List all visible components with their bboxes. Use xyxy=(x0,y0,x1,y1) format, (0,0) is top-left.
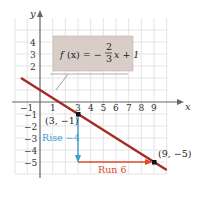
svg-text:8: 8 xyxy=(139,103,145,113)
x-axis-label: x xyxy=(185,101,191,112)
svg-text:−5: −5 xyxy=(24,158,38,168)
svg-text:4: 4 xyxy=(88,103,94,113)
svg-text:7: 7 xyxy=(126,103,132,113)
svg-text:−1: −1 xyxy=(24,110,37,120)
function-label-numerator: 2 xyxy=(106,41,112,52)
rise-label: Rise −4 xyxy=(42,132,80,143)
chart-canvas: x y −1 1 3 4 5 6 7 8 9 4 3 2 −1 −2 −3 −4… xyxy=(0,0,200,203)
svg-text:−4: −4 xyxy=(24,146,38,156)
svg-text:−2: −2 xyxy=(24,122,37,132)
svg-text:−3: −3 xyxy=(24,134,38,144)
run-label: Run 6 xyxy=(98,164,126,175)
label-leader-line xyxy=(56,74,68,90)
y-axis-arrow-icon xyxy=(37,10,43,17)
svg-text:6: 6 xyxy=(113,103,119,113)
svg-text:5: 5 xyxy=(101,103,107,113)
point-3-neg1-label: (3, −1) xyxy=(45,115,79,126)
y-axis-label: y xyxy=(29,8,36,19)
svg-text:9: 9 xyxy=(151,103,157,113)
point-9-neg5-label: (9, −5) xyxy=(158,148,192,159)
svg-text:1: 1 xyxy=(50,103,56,113)
function-label-tail: x + 1 xyxy=(114,49,139,60)
function-line xyxy=(21,78,167,170)
x-axis-arrow-icon xyxy=(177,99,184,105)
svg-text:2: 2 xyxy=(30,62,36,72)
function-label-body: (x) = − xyxy=(67,49,102,60)
svg-text:4: 4 xyxy=(30,38,36,48)
svg-text:3: 3 xyxy=(30,50,36,60)
point-9-neg5-marker xyxy=(152,160,157,165)
function-label-denominator: 3 xyxy=(106,53,112,64)
